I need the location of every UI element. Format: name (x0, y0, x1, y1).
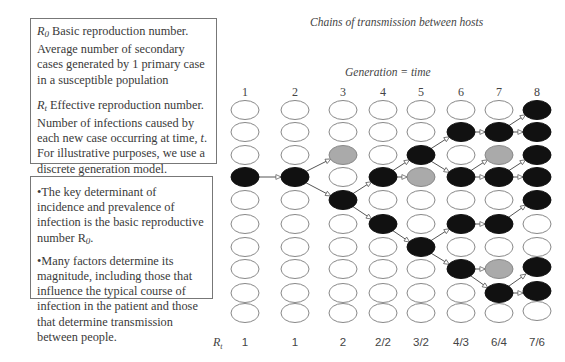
susceptible-host-node (369, 101, 397, 120)
susceptible-host-node (281, 191, 309, 210)
infected-host-node (231, 168, 259, 187)
susceptible-host-node (369, 284, 397, 303)
susceptible-host-node (329, 284, 357, 303)
susceptible-host-node (407, 191, 435, 210)
susceptible-host-node (447, 238, 475, 257)
infected-host-node (485, 168, 513, 187)
infected-host-node (447, 215, 475, 234)
susceptible-host-node (231, 101, 259, 120)
susceptible-host-node (485, 238, 513, 257)
susceptible-host-node (329, 260, 357, 279)
susceptible-host-node (447, 284, 475, 303)
generation-label: 6 (458, 85, 464, 99)
susceptible-host-node (369, 191, 397, 210)
susceptible-host-node (447, 146, 475, 165)
infected-host-node (407, 146, 435, 165)
infected-host-node (523, 282, 551, 301)
susceptible-host-node (281, 284, 309, 303)
rt-value: 4/3 (453, 336, 469, 348)
susceptible-host-node (485, 191, 513, 210)
infected-host-node (523, 123, 551, 142)
generation-label: 3 (340, 85, 346, 99)
susceptible-host-node (231, 284, 259, 303)
non-transmitting-host-node (485, 260, 513, 279)
host-nodes (231, 101, 551, 323)
susceptible-host-node (281, 238, 309, 257)
infected-host-node (523, 258, 551, 277)
generation-label: 4 (380, 85, 386, 99)
infected-host-node (523, 191, 551, 210)
susceptible-host-node (369, 260, 397, 279)
susceptible-host-node (231, 123, 259, 142)
rt-row: Rt 1122/23/24/36/47/6 (212, 335, 545, 351)
susceptible-host-node (231, 238, 259, 257)
susceptible-host-node (329, 215, 357, 234)
susceptible-host-node (523, 215, 551, 234)
susceptible-host-node (281, 304, 309, 323)
susceptible-host-node (485, 101, 513, 120)
infected-host-node (485, 123, 513, 142)
susceptible-host-node (447, 191, 475, 210)
susceptible-host-node (329, 123, 357, 142)
susceptible-host-node (523, 302, 551, 321)
rt-value: 3/2 (413, 336, 429, 348)
susceptible-host-node (407, 260, 435, 279)
susceptible-host-node (523, 238, 551, 257)
generation-label: 7 (496, 85, 502, 99)
infected-host-node (485, 284, 513, 303)
susceptible-host-node (281, 123, 309, 142)
rt-row-label: Rt (212, 335, 223, 351)
infected-host-node (523, 146, 551, 165)
susceptible-host-node (231, 191, 259, 210)
infected-host-node (329, 191, 357, 210)
susceptible-host-node (281, 101, 309, 120)
generation-label: 2 (292, 85, 298, 99)
generation-label: 5 (418, 85, 424, 99)
transmission-diagram: 12345678 Rt 1122/23/24/36/47/6 (0, 0, 565, 362)
susceptible-host-node (407, 101, 435, 120)
rt-value: 6/4 (491, 336, 508, 348)
infected-host-node (447, 123, 475, 142)
infected-host-node (447, 260, 475, 279)
rt-value: 7/6 (529, 336, 545, 348)
rt-value: 1 (242, 336, 248, 348)
susceptible-host-node (369, 146, 397, 165)
infected-host-node (447, 168, 475, 187)
rt-value: 2/2 (375, 336, 391, 348)
rt-value: 2 (340, 336, 346, 348)
generation-labels: 12345678 (242, 85, 540, 99)
susceptible-host-node (447, 101, 475, 120)
rt-value: 1 (292, 336, 298, 348)
susceptible-host-node (231, 304, 259, 323)
susceptible-host-node (485, 304, 513, 323)
infected-host-node (485, 215, 513, 234)
non-transmitting-host-node (407, 168, 435, 187)
susceptible-host-node (369, 123, 397, 142)
susceptible-host-node (231, 146, 259, 165)
susceptible-host-node (281, 215, 309, 234)
infected-host-node (369, 168, 397, 187)
generation-label: 8 (534, 85, 540, 99)
susceptible-host-node (369, 238, 397, 257)
susceptible-host-node (407, 304, 435, 323)
susceptible-host-node (407, 215, 435, 234)
susceptible-host-node (231, 215, 259, 234)
susceptible-host-node (369, 304, 397, 323)
susceptible-host-node (329, 304, 357, 323)
infected-host-node (281, 168, 309, 187)
susceptible-host-node (407, 284, 435, 303)
susceptible-host-node (281, 146, 309, 165)
infected-host-node (523, 101, 551, 120)
non-transmitting-host-node (485, 146, 513, 165)
infected-host-node (407, 238, 435, 257)
susceptible-host-node (329, 238, 357, 257)
non-transmitting-host-node (329, 146, 357, 165)
infected-host-node (523, 168, 551, 187)
generation-label: 1 (242, 85, 248, 99)
susceptible-host-node (329, 168, 357, 187)
infected-host-node (369, 215, 397, 234)
susceptible-host-node (281, 260, 309, 279)
susceptible-host-node (407, 123, 435, 142)
susceptible-host-node (231, 260, 259, 279)
susceptible-host-node (329, 101, 357, 120)
